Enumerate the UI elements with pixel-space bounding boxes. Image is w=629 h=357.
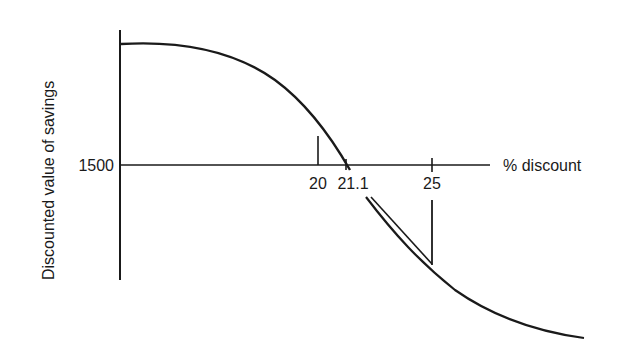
chord-line [371,197,432,264]
discount-diagram: Discounted value of savings 1500 20 21.1… [0,0,629,357]
y-tick-1500: 1500 [78,157,114,174]
x-axis-label: % discount [503,157,582,174]
y-axis-label: Discounted value of savings [40,81,57,280]
savings-curve-lower [366,197,584,338]
x-tick-21-1: 21.1 [337,175,368,192]
savings-curve-upper [121,43,350,170]
x-tick-25: 25 [423,175,441,192]
x-tick-20: 20 [309,175,327,192]
